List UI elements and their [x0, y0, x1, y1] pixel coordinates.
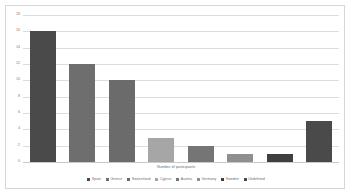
legend-item[interactable]: Undefined	[244, 178, 265, 182]
legend-item-label: Germany	[201, 178, 216, 182]
bar	[306, 121, 332, 162]
legend-item[interactable]: Switzerland	[127, 178, 150, 182]
legend-swatch-icon	[155, 178, 158, 181]
y-axis-tick-label: 18	[16, 13, 20, 17]
legend-swatch-icon	[176, 178, 179, 181]
legend-item-label: Austria	[181, 178, 192, 182]
y-axis-tick-label: 2	[18, 144, 20, 148]
legend-item-label: Spain	[92, 178, 101, 182]
bar	[267, 154, 293, 162]
bar	[69, 64, 95, 162]
legend-swatch-icon	[106, 178, 109, 181]
legend-swatch-icon	[127, 178, 130, 181]
chart-legend: SpainGreeceSwitzerlandCyprusAustriaGerma…	[6, 178, 346, 182]
legend-item[interactable]: Austria	[176, 178, 192, 182]
legend-item-label: Undefined	[248, 178, 264, 182]
gridline	[23, 162, 339, 163]
bar	[109, 80, 135, 162]
bar-series	[23, 15, 339, 162]
y-axis-tick-label: 4	[18, 128, 20, 132]
x-axis-title: Number of participants	[6, 166, 346, 170]
y-axis-tick-label: 14	[16, 46, 20, 50]
bar	[30, 31, 56, 162]
y-axis-tick-label: 0	[18, 160, 20, 164]
legend-swatch-icon	[87, 178, 90, 181]
y-axis-tick-label: 10	[16, 79, 20, 83]
legend-item-label: Sweden	[226, 178, 239, 182]
legend-item-label: Switzerland	[132, 178, 151, 182]
plot-area: 024681012141618	[23, 15, 339, 162]
legend-item[interactable]: Germany	[197, 178, 216, 182]
legend-item-label: Cyprus	[160, 178, 171, 182]
y-axis-tick-label: 12	[16, 62, 20, 66]
legend-swatch-icon	[197, 178, 200, 181]
legend-item[interactable]: Spain	[87, 178, 101, 182]
legend-item[interactable]: Sweden	[221, 178, 239, 182]
y-axis-tick-label: 16	[16, 30, 20, 34]
bar	[227, 154, 253, 162]
legend-swatch-icon	[244, 178, 247, 181]
legend-swatch-icon	[221, 178, 224, 181]
legend-item-label: Greece	[111, 178, 123, 182]
y-axis-tick-label: 8	[18, 95, 20, 99]
chart-frame: 024681012141618 Number of participants S…	[5, 5, 345, 189]
bar	[148, 138, 174, 163]
y-axis-tick-label: 6	[18, 111, 20, 115]
bar	[188, 146, 214, 162]
legend-item[interactable]: Greece	[106, 178, 122, 182]
legend-item[interactable]: Cyprus	[155, 178, 171, 182]
